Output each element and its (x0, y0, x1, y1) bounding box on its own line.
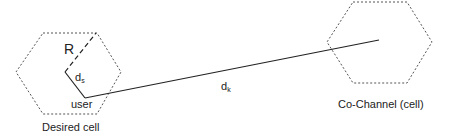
cochannel-interference-diagram: R ds user dk Desired cell Co-Channel (ce… (0, 0, 450, 139)
cochannel-cell-caption: Co-Channel (cell) (338, 98, 424, 110)
radius-label: R (64, 41, 74, 57)
diagram-graphics (0, 0, 450, 139)
dk-label: dk (221, 80, 231, 93)
user-label: user (71, 98, 92, 110)
cochannel-cell-hexagon (327, 2, 432, 83)
ds-label: ds (75, 71, 85, 84)
desired-cell-caption: Desired cell (42, 121, 99, 133)
dk-line (85, 40, 379, 98)
